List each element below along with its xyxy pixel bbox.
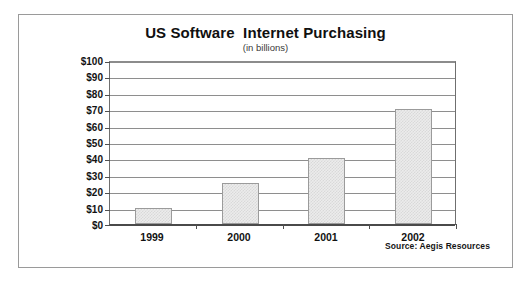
y-tick-mark [105,210,110,211]
y-axis-label-60: $60 [57,122,103,133]
y-tick-mark [105,160,110,161]
y-tick-mark [105,144,110,145]
figure-frame: US Software Internet Purchasing (in bill… [18,14,513,268]
bar-1999 [135,208,172,224]
x-axis-label-2000: 2000 [227,231,250,243]
plot-area [109,61,456,225]
y-tick-mark [105,225,110,226]
y-axis-label-20: $20 [57,187,103,198]
y-axis-tick-labels: $0$10$20$30$40$50$60$70$80$90$100 [57,61,103,225]
gridline-90 [110,78,455,79]
y-axis-label-90: $90 [57,72,103,83]
x-tick-mark [456,224,457,229]
x-axis-label-2001: 2001 [314,231,337,243]
x-axis-label-1999: 1999 [140,231,163,243]
y-axis-label-80: $80 [57,89,103,100]
y-axis-label-30: $30 [57,171,103,182]
y-tick-mark [105,78,110,79]
y-axis-label-100: $100 [57,56,103,67]
bar-2001 [308,158,345,224]
x-tick-mark [283,224,284,229]
bar-2002 [395,109,432,224]
bar-2000 [222,183,259,224]
gridline-100 [110,62,455,63]
y-tick-mark [105,62,110,63]
x-tick-mark [196,224,197,229]
chart-title: US Software Internet Purchasing [19,24,512,41]
y-axis-label-10: $10 [57,204,103,215]
y-axis-label-70: $70 [57,105,103,116]
y-tick-mark [105,95,110,96]
plot-inner [110,62,455,224]
y-tick-mark [105,177,110,178]
y-tick-mark [105,193,110,194]
x-tick-mark [369,224,370,229]
chart-figure: US Software Internet Purchasing (in bill… [0,0,529,281]
chart-subtitle: (in billions) [19,42,512,53]
y-tick-mark [105,128,110,129]
y-axis-label-40: $40 [57,154,103,165]
source-note: Source: Aegis Resources [385,241,490,251]
y-axis-label-0: $0 [57,220,103,231]
y-tick-mark [105,111,110,112]
gridline-80 [110,95,455,96]
y-axis-label-50: $50 [57,138,103,149]
